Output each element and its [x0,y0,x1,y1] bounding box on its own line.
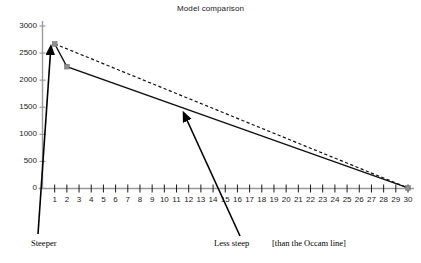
data-series [55,44,408,188]
annotation-arrows [38,52,240,236]
annotation-less-steep: Less steep [214,238,249,248]
series-line [55,44,408,188]
data-marker [406,186,411,191]
axes [39,21,415,193]
chart-container: Model comparison 05001000150020002500300… [0,0,421,263]
data-marker [52,41,57,46]
plot-area [0,0,421,263]
annotation-occam-note: [than the Occam line] [272,238,346,248]
less-steep-arrow [186,118,240,236]
annotation-steeper: Steeper [31,238,57,248]
data-marker [64,64,69,69]
steeper-arrow [38,52,51,234]
